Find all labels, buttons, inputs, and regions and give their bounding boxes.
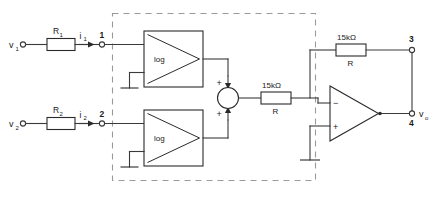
input-terminal-v2[interactable]: [20, 121, 25, 126]
opamp-output-junction-dot: [378, 112, 382, 116]
label-i2-subscript: 2: [84, 115, 88, 121]
log-amplifier-2-box: [144, 110, 203, 166]
label-series-resistor-name: R: [273, 107, 279, 116]
label-node-1: 1: [100, 30, 105, 40]
output-terminal-4[interactable]: [409, 111, 414, 116]
label-r1-main: R: [53, 26, 59, 36]
label-r2-subscript: 2: [60, 111, 64, 117]
feedback-resistor-body: [336, 44, 366, 56]
label-v2-subscript: 2: [16, 125, 20, 131]
current-arrow-i2-head: [88, 120, 95, 126]
node-2-terminal[interactable]: [99, 121, 104, 126]
log-amplifier-1-box: [144, 31, 203, 87]
resistor-r1-body: [47, 39, 75, 51]
label-output-node-4: 4: [409, 118, 414, 128]
series-resistor-body: [261, 92, 291, 104]
summing-junction-circle: [218, 88, 239, 109]
label-vo-subscript: o: [425, 115, 429, 121]
resistor-r2-body: [47, 118, 75, 130]
label-log-amplifier-2: log: [154, 134, 165, 143]
label-i2-main: i: [80, 110, 82, 120]
label-i1-subscript: 1: [84, 36, 88, 42]
node-1-terminal[interactable]: [99, 42, 104, 47]
label-series-resistor-value: 15kΩ: [262, 81, 281, 90]
circuit-diagram-canvas: v 1 R 1 i 1 1 log v 2 R 2 i 2 2 log + + …: [0, 0, 446, 212]
label-opamp-inverting-sign: −: [333, 98, 338, 108]
opamp-triangle-body: [330, 86, 379, 141]
label-opamp-noninverting-sign: +: [333, 122, 338, 132]
output-terminal-3[interactable]: [409, 47, 414, 52]
current-arrow-i1-head: [88, 41, 95, 47]
label-log-amplifier-1: log: [154, 55, 165, 64]
label-v2-main: v: [9, 119, 14, 129]
label-v1-subscript: 1: [16, 46, 20, 52]
label-feedback-resistor-name: R: [348, 59, 354, 68]
label-i1-main: i: [80, 31, 82, 41]
label-summer-bottom-sign: +: [217, 109, 222, 119]
label-v1-main: v: [9, 40, 14, 50]
label-feedback-resistor-value: 15kΩ: [337, 33, 356, 42]
label-output-node-3: 3: [409, 34, 414, 44]
schematic-svg: v 1 R 1 i 1 1 log v 2 R 2 i 2 2 log + + …: [0, 0, 446, 212]
label-r1-subscript: 1: [60, 32, 64, 38]
label-vo-main: v: [419, 109, 424, 119]
label-summer-top-sign: +: [217, 78, 222, 88]
label-r2-main: R: [53, 105, 59, 115]
input-terminal-v1[interactable]: [20, 42, 25, 47]
label-node-2: 2: [100, 109, 105, 119]
